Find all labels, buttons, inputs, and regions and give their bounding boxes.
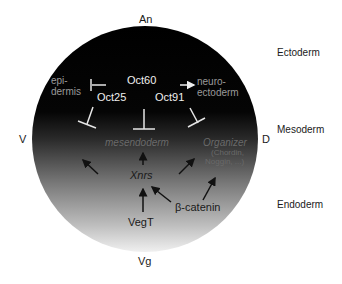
germ-layer-ectoderm: Ectoderm (277, 48, 320, 58)
vegt-label: VegT (128, 217, 154, 228)
germ-layer-mesoderm: Mesoderm (277, 125, 324, 135)
epidermis-label-line2: dermis (51, 87, 81, 97)
organizer-label: Organizer (203, 138, 247, 148)
mesendoderm-label: mesendoderm (105, 138, 169, 148)
oct25-label: Oct25 (97, 92, 126, 103)
animal-pole-label: An (139, 14, 152, 25)
oct91-label: Oct91 (155, 92, 184, 103)
ventral-pole-label: V (19, 134, 26, 145)
dorsal-pole-label: D (262, 134, 270, 145)
organizer-genes-line1: (Chordin, (211, 149, 244, 157)
neuroectoderm-label-line2: ectoderm (197, 88, 239, 98)
neuroectoderm-label-line1: neuro- (197, 77, 226, 87)
organizer-genes-line2: Noggin, ...) (205, 158, 244, 166)
epidermis-label-line1: epi- (51, 76, 68, 86)
beta-catenin-label: β-catenin (175, 202, 220, 213)
germ-layer-endoderm: Endoderm (277, 200, 323, 210)
vegetal-pole-label: Vg (138, 256, 151, 267)
oct60-label: Oct60 (127, 75, 156, 86)
xnrs-label: Xnrs (130, 170, 153, 181)
embryo-diagram (0, 0, 342, 284)
